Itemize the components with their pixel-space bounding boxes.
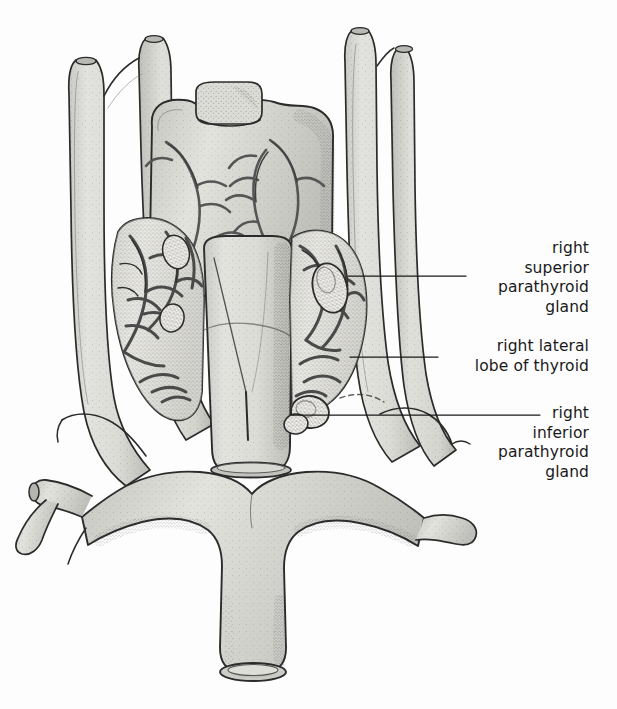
label-line: gland [498, 463, 589, 483]
label-line: parathyroid [498, 443, 589, 463]
label-line: inferior [498, 424, 589, 444]
label-line: right [498, 404, 589, 424]
epiglottis-notch [196, 82, 262, 126]
label-right-lateral-lobe-of-thyroid: right lateral lobe of thyroid [475, 337, 589, 376]
label-line: gland [498, 298, 589, 318]
superior-vena-cava [220, 663, 286, 681]
figure-canvas: right superior parathyroid gland right l… [0, 0, 617, 709]
label-right-inferior-parathyroid-gland: right inferior parathyroid gland [498, 404, 589, 482]
label-line: right lateral [475, 337, 589, 357]
label-line: right [498, 239, 589, 259]
label-line: superior [498, 259, 589, 279]
label-line: lobe of thyroid [475, 357, 589, 377]
label-line: parathyroid [498, 278, 589, 298]
trachea [204, 236, 292, 478]
label-right-superior-parathyroid-gland: right superior parathyroid gland [498, 239, 589, 317]
